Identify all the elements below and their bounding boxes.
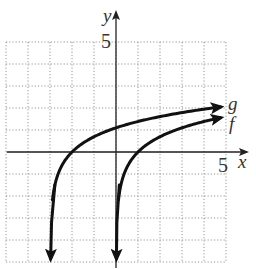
- label-g: g: [228, 93, 238, 114]
- graph: y 5 x 5 g f: [0, 0, 256, 269]
- x-axis-label: x: [237, 151, 247, 172]
- label-f: f: [229, 113, 237, 134]
- curve-f-down-arrow: [116, 185, 119, 259]
- x-tick-5: 5: [218, 154, 228, 176]
- y-axis-label: y: [101, 5, 112, 26]
- y-tick-5: 5: [101, 30, 111, 52]
